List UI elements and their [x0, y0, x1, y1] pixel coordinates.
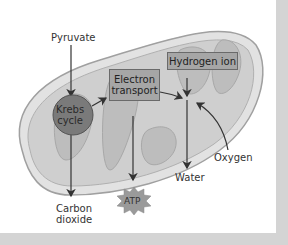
- krebs-cycle-label: Krebs cycle: [56, 104, 84, 126]
- water-label: Water: [175, 172, 205, 183]
- electron-line-2: transport: [110, 85, 159, 96]
- carbon-line-2: dioxide: [56, 214, 92, 225]
- krebs-line-1: Krebs: [56, 104, 84, 115]
- krebs-line-2: cycle: [56, 115, 84, 126]
- atp-label: ATP: [124, 196, 140, 207]
- pyruvate-label: Pyruvate: [51, 32, 96, 43]
- carbon-dioxide-label: Carbon dioxide: [56, 203, 92, 225]
- electron-transport-box: Electron transport: [109, 69, 160, 101]
- carbon-line-1: Carbon: [56, 203, 92, 214]
- hydrogen-ion-box: Hydrogen ion: [167, 52, 238, 70]
- mitochondrion-diagram: [0, 0, 288, 245]
- electron-line-1: Electron: [110, 74, 159, 85]
- oxygen-label: Oxygen: [214, 152, 253, 163]
